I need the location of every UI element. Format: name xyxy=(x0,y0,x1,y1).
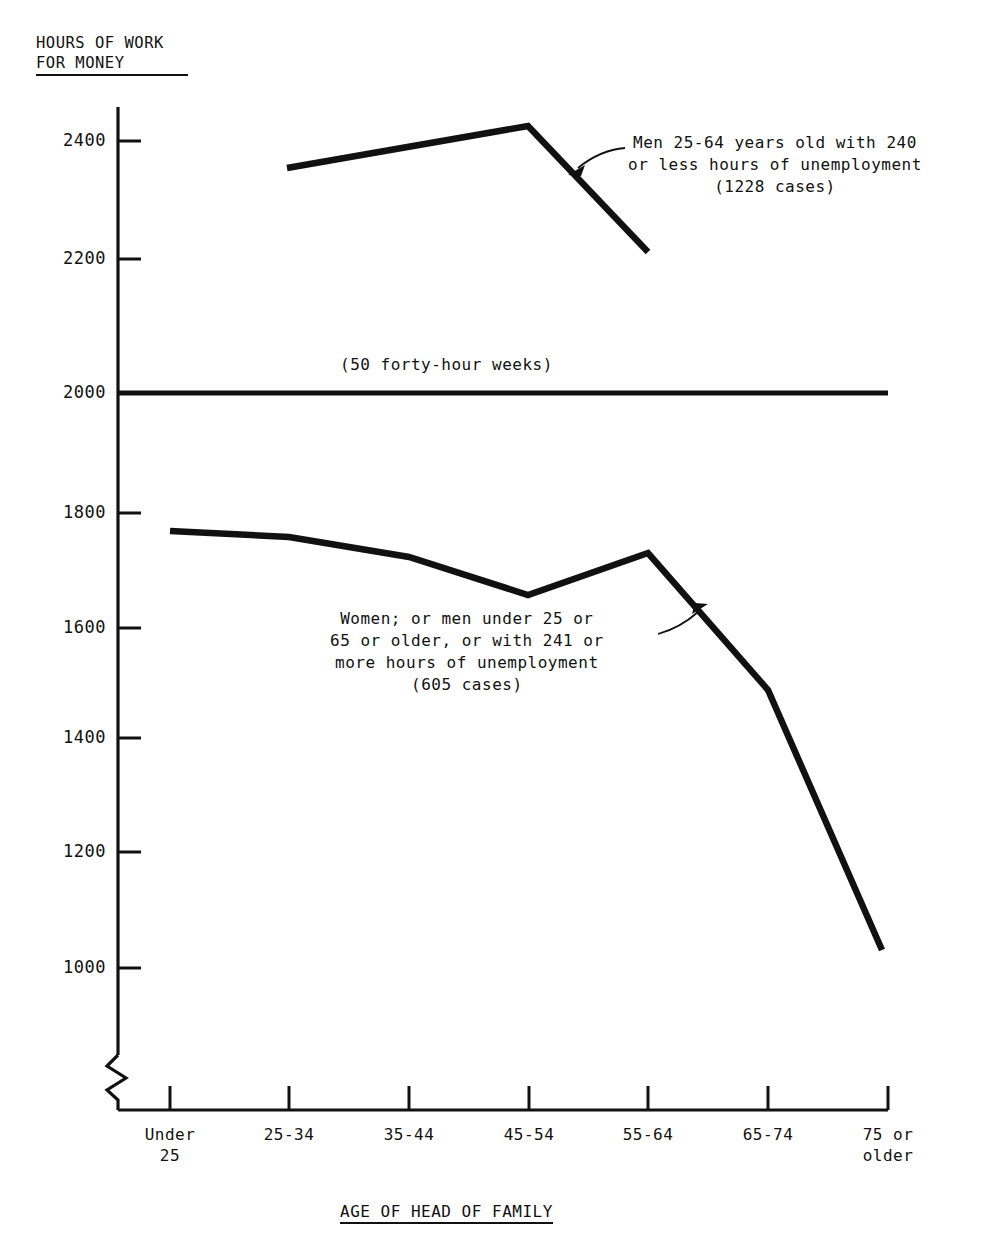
y-tick-marks xyxy=(118,141,141,968)
x-tick-label-75-or-older: 75 orolder xyxy=(828,1124,948,1166)
annotation-upper-line2: or less hours of unemployment xyxy=(628,155,922,174)
x-axis-title: AGE OF HEAD OF FAMILY xyxy=(340,1202,553,1224)
y-tick-label-2400: 2400 xyxy=(40,130,106,150)
annotation-upper-series: Men 25-64 years old with 240or less hour… xyxy=(628,132,922,198)
annotation-upper-line3: (1228 cases) xyxy=(714,177,836,196)
annotation-lower-series: Women; or men under 25 or65 or older, or… xyxy=(330,608,604,696)
x-tick-label-75-or-older-line1: 75 or xyxy=(863,1125,914,1144)
x-tick-label-75-or-older-line2: older xyxy=(863,1146,914,1165)
series-line-men-25-64 xyxy=(287,126,648,252)
series-line-women-and-other-men xyxy=(170,531,882,950)
x-tick-label-35-44: 35-44 xyxy=(349,1124,469,1145)
annotation-lower-line2: 65 or older, or with 241 or xyxy=(330,631,604,650)
x-tick-label-45-54: 45-54 xyxy=(469,1124,589,1145)
y-tick-label-2000: 2000 xyxy=(40,382,106,402)
reference-line-label: (50 forty-hour weeks) xyxy=(340,355,553,374)
x-tick-label-under-25: Under25 xyxy=(110,1124,230,1166)
y-axis-break-zigzag xyxy=(107,1055,126,1110)
annotation-upper-line1: Men 25-64 years old with 240 xyxy=(633,133,917,152)
y-tick-label-1400: 1400 xyxy=(40,727,106,747)
annotation-lower-line3: more hours of unemployment xyxy=(335,653,598,672)
x-tick-label-55-64: 55-64 xyxy=(588,1124,708,1145)
annotation-lower-line1: Women; or men under 25 or xyxy=(340,609,593,628)
chart-figure: HOURS OF WORKFOR MONEY xyxy=(0,0,981,1252)
x-tick-label-65-74: 65-74 xyxy=(708,1124,828,1145)
annotation-leader-upper xyxy=(568,148,625,176)
y-tick-label-1000: 1000 xyxy=(40,957,106,977)
annotation-lower-line4: (605 cases) xyxy=(411,675,522,694)
y-tick-label-1200: 1200 xyxy=(40,841,106,861)
y-tick-label-1800: 1800 xyxy=(40,502,106,522)
annotation-leader-lower xyxy=(658,603,708,634)
x-tick-label-under-25-line2: 25 xyxy=(160,1146,180,1165)
x-tick-label-under-25-line1: Under xyxy=(145,1125,196,1144)
x-tick-marks xyxy=(170,1086,888,1110)
x-tick-label-25-34: 25-34 xyxy=(229,1124,349,1145)
y-tick-label-2200: 2200 xyxy=(40,248,106,268)
y-tick-label-1600: 1600 xyxy=(40,617,106,637)
